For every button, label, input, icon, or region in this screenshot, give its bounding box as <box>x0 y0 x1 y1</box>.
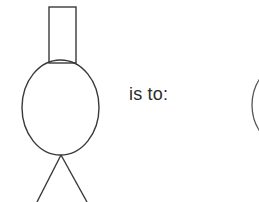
analogy-prompt-text: is to: <box>129 84 168 104</box>
right-figure-group <box>252 57 259 153</box>
left-figure-group <box>22 7 99 202</box>
ellipse-body-shape <box>22 60 99 155</box>
right-leg-line <box>61 155 87 202</box>
left-leg-line <box>37 155 61 202</box>
rectangle-head-shape <box>49 7 76 63</box>
diagram-canvas: is to: <box>0 0 259 202</box>
partial-circle-shape <box>252 57 259 153</box>
